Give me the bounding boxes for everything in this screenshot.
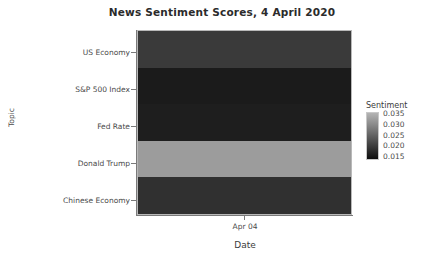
heatmap-plot-area[interactable]: [137, 30, 352, 215]
heatmap-cell-sp-500-index[interactable]: [138, 68, 351, 105]
x-tick-label-apr-04: Apr 04: [200, 222, 290, 231]
chart-title: News Sentiment Scores, 4 April 2020: [0, 6, 444, 18]
y-tick-mark-2: [131, 126, 136, 127]
y-tick-label-donald-trump: Donald Trump: [0, 159, 130, 168]
colorbar-tick-labels: 0.035 0.030 0.025 0.020 0.015: [383, 110, 439, 161]
x-tick-mark-0: [244, 216, 245, 220]
y-tick-mark-3: [131, 163, 136, 164]
colorbar-tick-1: 0.030: [383, 121, 439, 129]
figure-canvas: News Sentiment Scores, 4 April 2020 US E…: [0, 0, 444, 265]
colorbar-tick-0: 0.035: [383, 110, 439, 118]
colorbar-tick-3: 0.020: [383, 142, 439, 150]
y-tick-label-fed-rate: Fed Rate: [0, 122, 130, 131]
y-tick-label-us-economy: US Economy: [0, 48, 130, 57]
heatmap-cell-us-economy[interactable]: [138, 31, 351, 68]
y-tick-mark-0: [131, 52, 136, 53]
colorbar-tick-2: 0.025: [383, 132, 439, 140]
heatmap-cell-fed-rate[interactable]: [138, 104, 351, 141]
y-tick-label-sp-500-index: S&P 500 Index: [0, 85, 130, 94]
x-axis-title: Date: [185, 240, 305, 250]
y-axis-title: Topic: [7, 98, 16, 138]
colorbar-gradient[interactable]: [366, 112, 379, 160]
heatmap-cell-donald-trump[interactable]: [138, 141, 351, 178]
heatmap-cell-chinese-economy[interactable]: [138, 177, 351, 214]
y-tick-label-chinese-economy: Chinese Economy: [0, 196, 130, 205]
colorbar-tick-4: 0.015: [383, 153, 439, 161]
y-tick-mark-1: [131, 89, 136, 90]
y-tick-mark-4: [131, 200, 136, 201]
y-axis-spine: [136, 30, 137, 216]
